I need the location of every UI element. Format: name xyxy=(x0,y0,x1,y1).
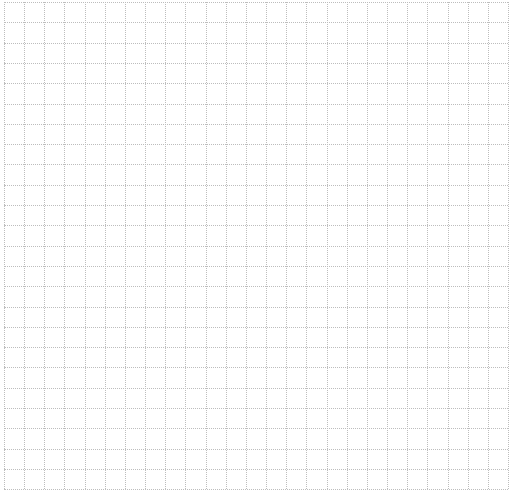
grid-horizontal-line xyxy=(4,104,508,105)
graph-paper-grid xyxy=(4,2,508,489)
grid-horizontal-line xyxy=(4,185,508,186)
grid-horizontal-line xyxy=(4,63,508,64)
grid-horizontal-line xyxy=(4,83,508,84)
grid-horizontal-line xyxy=(4,327,508,328)
grid-horizontal-line xyxy=(4,428,508,429)
grid-horizontal-line xyxy=(4,43,508,44)
grid-horizontal-line xyxy=(4,347,508,348)
grid-horizontal-line xyxy=(4,469,508,470)
grid-horizontal-line xyxy=(4,2,508,3)
grid-horizontal-line xyxy=(4,124,508,125)
grid-horizontal-line xyxy=(4,307,508,308)
grid-horizontal-line xyxy=(4,489,508,490)
grid-horizontal-line xyxy=(4,286,508,287)
grid-horizontal-line xyxy=(4,205,508,206)
grid-horizontal-line xyxy=(4,144,508,145)
grid-horizontal-line xyxy=(4,225,508,226)
grid-horizontal-line xyxy=(4,388,508,389)
grid-vertical-line xyxy=(508,2,509,489)
grid-horizontal-line xyxy=(4,246,508,247)
grid-horizontal-line xyxy=(4,266,508,267)
grid-horizontal-line xyxy=(4,22,508,23)
grid-horizontal-line xyxy=(4,449,508,450)
grid-horizontal-line xyxy=(4,408,508,409)
grid-horizontal-line xyxy=(4,367,508,368)
grid-horizontal-line xyxy=(4,164,508,165)
